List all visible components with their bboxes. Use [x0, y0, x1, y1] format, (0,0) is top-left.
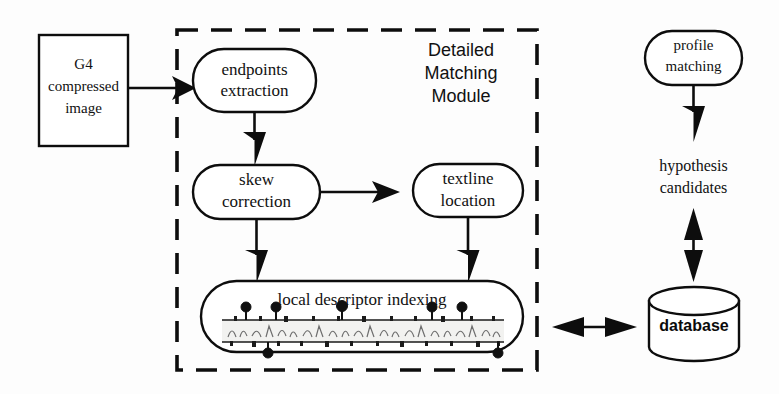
- diagram-canvas: G4 compressed image endpoints extraction…: [0, 0, 779, 394]
- endpoints-extraction-label-line2: extraction: [221, 81, 289, 100]
- input-box-g4-compressed-image: G4 compressed image: [39, 35, 128, 146]
- endpoints-extraction-label-line1: endpoints: [221, 60, 287, 79]
- database-label: database: [659, 317, 728, 334]
- input-box-label-line3: image: [65, 100, 102, 116]
- node-endpoints-extraction: endpoints extraction: [193, 49, 316, 112]
- database-cylinder: database: [649, 287, 739, 361]
- edge-skew-to-textline: [320, 181, 400, 203]
- textline-location-label-line1: textline: [443, 169, 494, 188]
- edge-skew-to-indexing: [245, 219, 268, 283]
- local-descriptor-indexing-label: local descriptor indexing: [277, 290, 447, 309]
- profile-matching-label-line2: matching: [666, 58, 722, 74]
- edge-profile-to-hypothesis: [682, 85, 705, 142]
- hypothesis-candidates-line1: hypothesis: [659, 157, 727, 175]
- node-local-descriptor-indexing: local descriptor indexing: [201, 281, 523, 358]
- edge-indexing-to-database: [552, 317, 637, 337]
- edge-input-to-endpoints: [128, 76, 196, 100]
- profile-matching-label-line1: profile: [674, 37, 714, 53]
- hypothesis-candidates-label: hypothesis candidates: [659, 157, 727, 196]
- textline-strip-image: [222, 316, 504, 347]
- module-label-line3: Module: [431, 86, 490, 106]
- node-textline-location: textline location: [413, 164, 523, 217]
- node-skew-correction: skew correction: [193, 165, 320, 219]
- node-profile-matching: profile matching: [645, 31, 742, 85]
- hypothesis-candidates-line2: candidates: [660, 179, 728, 196]
- detailed-matching-module-label: Detailed Matching Module: [424, 40, 497, 106]
- skew-correction-label-line2: correction: [222, 192, 291, 211]
- skew-correction-label-line1: skew: [239, 170, 275, 189]
- edge-endpoints-to-skew: [243, 112, 266, 166]
- module-label-line2: Matching: [424, 63, 497, 83]
- input-box-label-line2: compressed: [48, 78, 119, 94]
- module-label-line1: Detailed: [428, 40, 494, 60]
- input-box-label-line1: G4: [74, 56, 93, 72]
- edge-textline-to-indexing: [457, 217, 480, 283]
- edge-hypothesis-to-database: [684, 208, 703, 282]
- textline-location-label-line2: location: [441, 191, 496, 210]
